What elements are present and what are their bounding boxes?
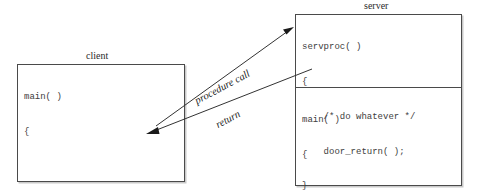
server-main-listing: main( ) { ... fd = door_create( ); fatta…: [302, 92, 461, 196]
code-line: servproc( ): [302, 42, 461, 54]
server-caption: server: [364, 0, 388, 11]
server-servproc-pane: servproc( ) { /* do whatever */ door_ret…: [296, 15, 461, 88]
diagram-canvas: client main( ) { ... fd = open(path, ); …: [0, 0, 480, 196]
client-code-pane: main( ) { ... fd = open(path, ); door_ca…: [18, 65, 184, 181]
client-caption: client: [86, 50, 108, 61]
procedure-call-arrowhead: [283, 27, 294, 35]
procedure-call-label: procedure call: [193, 68, 252, 106]
code-line: main( ): [24, 92, 184, 104]
code-line: [24, 162, 184, 174]
code-line: {: [24, 127, 184, 139]
code-line: main( ): [302, 115, 461, 127]
code-line: {: [302, 150, 461, 162]
server-main-pane: main( ) { ... fd = door_create( ); fatta…: [296, 88, 461, 185]
code-line: {: [302, 77, 461, 89]
server-code-box: servproc( ) { /* do whatever */ door_ret…: [295, 14, 462, 186]
code-line: [302, 185, 461, 196]
client-code-listing: main( ) { ... fd = open(path, ); door_ca…: [24, 69, 184, 196]
client-code-box: main( ) { ... fd = open(path, ); door_ca…: [17, 64, 185, 182]
return-label: return: [214, 108, 242, 130]
